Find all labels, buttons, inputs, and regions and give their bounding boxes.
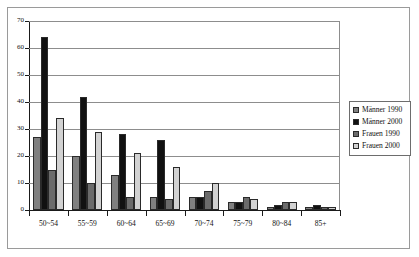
legend-item: Frauen 2000 xyxy=(350,140,410,152)
x-tick-1 xyxy=(68,211,69,216)
bar-group-65-69 xyxy=(150,21,180,210)
x-tick-label-75-79: 75~79 xyxy=(223,219,262,228)
x-tick-8 xyxy=(340,211,341,216)
bar-group-85- xyxy=(305,21,335,210)
bar xyxy=(95,132,103,210)
bar xyxy=(134,153,142,210)
bar xyxy=(228,202,236,210)
y-tick-label-40: 40 xyxy=(4,98,24,105)
bar xyxy=(204,191,212,210)
legend-label: Männer 2000 xyxy=(362,118,402,126)
bar xyxy=(87,183,95,210)
y-tick-label-70: 70 xyxy=(4,17,24,24)
chart-figure: 010203040506070 50~5455~5960~6465~6970~7… xyxy=(0,0,419,257)
x-tick-3 xyxy=(146,211,147,216)
bar xyxy=(48,170,56,211)
y-tick-label-10: 10 xyxy=(4,179,24,186)
bar xyxy=(212,183,220,210)
bar xyxy=(150,197,158,211)
bar xyxy=(165,199,173,210)
bar xyxy=(72,156,80,210)
x-tick-label-85-: 85+ xyxy=(301,219,340,228)
bar xyxy=(111,175,119,210)
bar xyxy=(119,134,127,210)
legend-swatch-icon xyxy=(353,107,359,113)
bar xyxy=(282,202,290,210)
bar xyxy=(196,197,204,211)
x-tick-label-55-59: 55~59 xyxy=(68,219,107,228)
legend-swatch-icon xyxy=(353,131,359,137)
legend-label: Frauen 2000 xyxy=(362,142,400,150)
bar xyxy=(33,137,41,210)
bar-group-70-74 xyxy=(189,21,219,210)
bar xyxy=(126,197,134,211)
x-tick-2 xyxy=(107,211,108,216)
bar-group-80-84 xyxy=(267,21,297,210)
y-tick-label-30: 30 xyxy=(4,125,24,132)
plot-area xyxy=(29,21,340,210)
bar xyxy=(250,199,258,210)
y-tick-label-60: 60 xyxy=(4,44,24,51)
bar-group-50-54 xyxy=(33,21,63,210)
bar xyxy=(235,202,243,210)
legend-item: Frauen 1990 xyxy=(350,128,410,140)
legend-swatch-icon xyxy=(353,143,359,149)
x-tick-label-60-64: 60~64 xyxy=(107,219,146,228)
bar xyxy=(41,37,49,210)
legend-label: Männer 1990 xyxy=(362,106,402,114)
bar-group-55-59 xyxy=(72,21,102,210)
chart-legend: Männer 1990Männer 2000Frauen 1990Frauen … xyxy=(349,101,411,156)
x-tick-7 xyxy=(301,211,302,216)
x-tick-label-80-84: 80~84 xyxy=(262,219,301,228)
x-tick-label-70-74: 70~74 xyxy=(185,219,224,228)
y-tick-label-50: 50 xyxy=(4,71,24,78)
bar xyxy=(243,197,251,211)
x-tick-label-50-54: 50~54 xyxy=(29,219,68,228)
y-tick-label-20: 20 xyxy=(4,152,24,159)
bar xyxy=(173,167,181,210)
x-tick-5 xyxy=(223,211,224,216)
bar xyxy=(289,202,297,210)
bar-group-60-64 xyxy=(111,21,141,210)
x-tick-6 xyxy=(262,211,263,216)
plot-right-edge xyxy=(339,21,340,210)
bar xyxy=(80,97,88,210)
bar xyxy=(189,197,197,211)
x-tick-0 xyxy=(29,211,30,216)
legend-item: Männer 2000 xyxy=(350,116,410,128)
legend-label: Frauen 1990 xyxy=(362,130,400,138)
x-tick-4 xyxy=(185,211,186,216)
bar-group-75-79 xyxy=(228,21,258,210)
legend-item: Männer 1990 xyxy=(350,104,410,116)
bar xyxy=(56,118,64,210)
bar xyxy=(157,140,165,210)
y-tick-label-0: 0 xyxy=(4,206,24,213)
x-tick-label-65-69: 65~69 xyxy=(146,219,185,228)
legend-swatch-icon xyxy=(353,119,359,125)
